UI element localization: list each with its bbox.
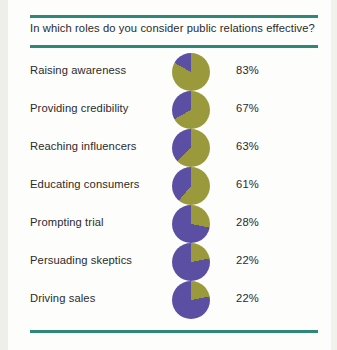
row-value: 61%: [236, 178, 259, 190]
pie-chart: [172, 129, 210, 167]
chart-row: Raising awareness83%: [8, 53, 331, 91]
chart-rows: Raising awareness83%Providing credibilit…: [8, 53, 331, 319]
pie-slice-group: [172, 281, 210, 319]
row-label: Raising awareness: [30, 64, 126, 76]
chart-page: In which roles do you consider public re…: [0, 0, 337, 350]
pie-chart: [172, 167, 210, 205]
divider-bottom: [30, 330, 318, 333]
chart-row: Driving sales22%: [8, 281, 331, 319]
pie-chart: [172, 243, 210, 281]
pie-slice-group: [172, 243, 210, 281]
pie-slice-group: [172, 53, 210, 91]
row-label: Providing credibility: [30, 102, 128, 114]
page-title: In which roles do you consider public re…: [30, 22, 325, 34]
pie-chart: [172, 205, 210, 243]
row-label: Persuading skeptics: [30, 254, 132, 266]
pie-slice-group: [172, 91, 210, 129]
row-value: 28%: [236, 216, 259, 228]
row-value: 83%: [236, 64, 259, 76]
chart-row: Prompting trial28%: [8, 205, 331, 243]
row-value: 67%: [236, 102, 259, 114]
divider-top: [30, 15, 318, 18]
chart-content: In which roles do you consider public re…: [8, 0, 331, 350]
chart-row: Educating consumers61%: [8, 167, 331, 205]
chart-row: Persuading skeptics22%: [8, 243, 331, 281]
chart-row: Providing credibility67%: [8, 91, 331, 129]
pie-slice-group: [172, 167, 210, 205]
pie-slice-group: [172, 205, 210, 243]
chart-row: Reaching influencers63%: [8, 129, 331, 167]
pie-chart: [172, 53, 210, 91]
pie-chart: [172, 281, 210, 319]
pie-chart: [172, 91, 210, 129]
row-label: Educating consumers: [30, 178, 139, 190]
row-label: Driving sales: [30, 292, 95, 304]
divider-under-title: [30, 45, 318, 48]
row-value: 63%: [236, 140, 259, 152]
row-value: 22%: [236, 292, 259, 304]
row-label: Reaching influencers: [30, 140, 136, 152]
row-value: 22%: [236, 254, 259, 266]
pie-slice-group: [172, 129, 210, 167]
row-label: Prompting trial: [30, 216, 104, 228]
